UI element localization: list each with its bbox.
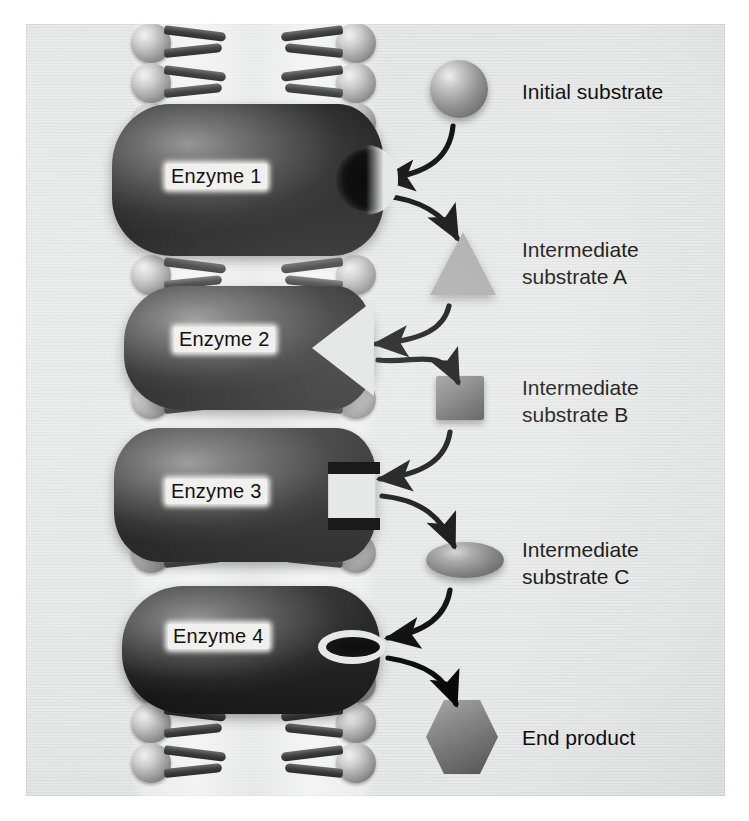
phospholipid	[254, 740, 376, 786]
enzyme-pathway-figure: Enzyme 1 Enzyme 2 Enzyme 3 Enzyme 4 Init…	[0, 0, 749, 821]
enzyme-4-label: Enzyme 4	[168, 624, 269, 649]
substrate-a-triangle	[430, 232, 496, 295]
lipid-tail	[285, 723, 344, 738]
enzyme-1-label: Enzyme 1	[166, 164, 267, 189]
enzyme-3-label: Enzyme 3	[166, 479, 267, 504]
substrate-b-square	[436, 376, 484, 420]
substrate-c-ellipse	[426, 542, 504, 578]
substrate-a-label: Intermediate substrate A	[522, 236, 639, 290]
lipid-tail	[164, 65, 227, 81]
enzyme-2-active-site	[312, 300, 374, 396]
lipid-tail	[285, 763, 344, 778]
lipid-tail	[281, 745, 344, 761]
lipid-tail	[164, 25, 227, 41]
lipid-tail	[281, 65, 344, 81]
enzyme-3-site-channel	[328, 518, 380, 530]
lipid-tail	[164, 723, 223, 738]
substrate-initial-sphere	[430, 60, 488, 118]
enzyme-3-site-channel	[328, 462, 380, 474]
lipid-tail	[164, 763, 223, 778]
enzyme-1-site-opening	[366, 145, 398, 215]
lipid-tail	[281, 25, 344, 41]
substrate-initial-label: Initial substrate	[522, 78, 663, 105]
lipid-tail	[281, 257, 344, 273]
lipid-tail	[164, 745, 227, 761]
enzyme-2-label: Enzyme 2	[174, 327, 275, 352]
end-product-hexagon	[426, 700, 498, 774]
arrow-out-4	[388, 658, 456, 704]
figure-panel: Enzyme 1 Enzyme 2 Enzyme 3 Enzyme 4 Init…	[26, 24, 725, 796]
enzyme-3-active-site	[328, 472, 376, 520]
enzyme-4-site-inner	[326, 637, 380, 657]
arrow-in-3	[380, 432, 450, 479]
arrow-in-2	[376, 306, 449, 344]
phospholipid	[131, 740, 253, 786]
substrate-c-label: Intermediate substrate C	[522, 536, 639, 590]
end-product-label: End product	[522, 724, 635, 751]
lipid-tail	[285, 83, 344, 98]
lipid-tail	[285, 43, 344, 58]
substrate-b-label: Intermediate substrate B	[522, 374, 639, 428]
lipid-tail	[164, 43, 223, 58]
arrow-out-3	[382, 496, 454, 546]
lipid-tail	[164, 257, 227, 273]
lipid-tail	[164, 83, 223, 98]
arrow-in-4	[388, 590, 450, 638]
